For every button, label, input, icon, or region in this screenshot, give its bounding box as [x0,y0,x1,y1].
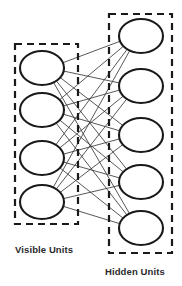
visible-unit-2 [20,93,64,127]
hidden-units-label: Hidden Units [105,267,165,277]
edge-visible3-hidden1 [56,49,128,145]
edge-visible1-hidden1 [63,41,121,63]
unit-nodes-group [20,19,163,245]
visible-unit-1 [20,51,64,85]
hidden-unit-3 [119,118,163,152]
hidden-unit-5 [119,211,163,245]
rbm-diagram-canvas: Visible Units Hidden Units [0,0,182,286]
edge-visible3-hidden5 [60,168,124,219]
edge-visible4-hidden4 [63,185,120,198]
hidden-unit-2 [119,69,163,103]
visible-units-label: Visible Units [15,245,73,255]
edge-visible3-hidden3 [63,139,120,154]
hidden-unit-1 [119,19,163,53]
visible-unit-4 [20,185,64,219]
edge-visible4-hidden2 [56,99,127,190]
visible-unit-3 [20,141,64,175]
edge-visible2-hidden2 [63,90,120,106]
hidden-unit-4 [119,165,163,199]
